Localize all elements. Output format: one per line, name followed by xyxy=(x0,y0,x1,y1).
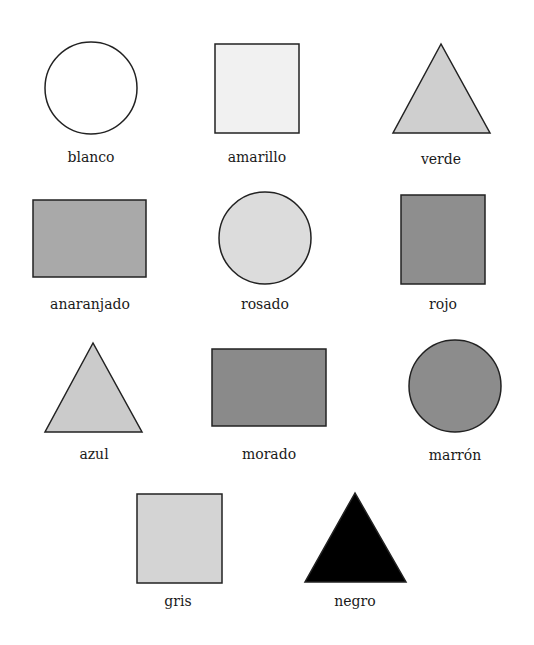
circle-rosado xyxy=(219,192,311,284)
shape-label-rojo: rojo xyxy=(373,296,513,312)
rectangle-anaranjado xyxy=(33,200,146,277)
square-rojo xyxy=(401,195,485,284)
shape-label-azul: azul xyxy=(24,446,164,462)
shape-label-gris: gris xyxy=(108,593,248,609)
triangle-verde xyxy=(393,44,490,133)
triangle-negro xyxy=(305,493,406,582)
square-gris xyxy=(137,494,222,583)
shape-chart: blancoamarilloverdeanaranjadorosadorojoa… xyxy=(0,0,534,645)
circle-blanco xyxy=(45,42,137,134)
triangle-azul xyxy=(45,343,142,432)
circle-marrón xyxy=(409,340,501,432)
shape-label-verde: verde xyxy=(371,151,511,167)
shapes-canvas xyxy=(0,0,534,645)
shape-label-marrón: marrón xyxy=(385,447,525,463)
shape-label-anaranjado: anaranjado xyxy=(20,296,160,312)
shape-label-negro: negro xyxy=(285,593,425,609)
rectangle-morado xyxy=(212,349,326,426)
shape-label-blanco: blanco xyxy=(21,149,161,165)
square-amarillo xyxy=(215,44,299,133)
shape-label-morado: morado xyxy=(199,446,339,462)
shape-label-amarillo: amarillo xyxy=(187,149,327,165)
shape-label-rosado: rosado xyxy=(195,296,335,312)
